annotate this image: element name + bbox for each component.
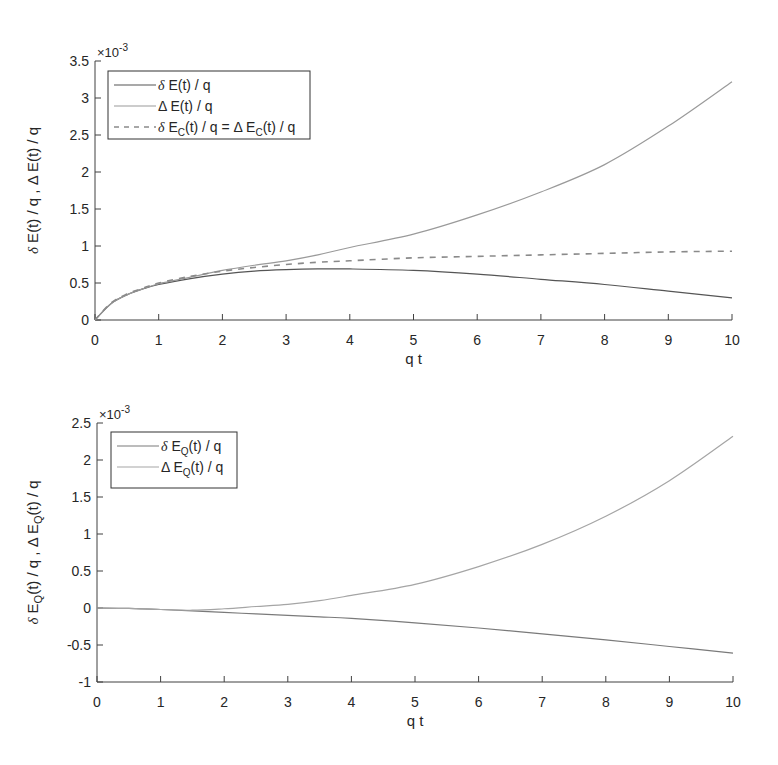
- y-tick-label: 0: [81, 312, 89, 328]
- x-tick-label: 1: [157, 694, 165, 710]
- y-tick-label: 2: [83, 452, 91, 468]
- y-axis-label: δ EQ(t) / q , Δ EQ(t) / q: [24, 480, 44, 624]
- legend: δ EQ(t) / qΔ EQ(t) / q: [111, 432, 237, 488]
- series-line-2: [95, 251, 732, 320]
- y-exponent-label: ×10-3: [97, 42, 128, 60]
- series-line-0: [97, 608, 733, 653]
- y-tick-label: 2.5: [72, 415, 92, 431]
- y-tick-label: -1: [79, 674, 92, 690]
- x-tick-label: 6: [473, 332, 481, 348]
- figure: 01234567891000.511.522.533.5×10-3q tδ E(…: [0, 0, 778, 765]
- x-tick-label: 3: [284, 694, 292, 710]
- x-tick-label: 7: [537, 332, 545, 348]
- x-tick-label: 3: [282, 332, 290, 348]
- x-axis-label: q t: [407, 712, 425, 729]
- x-tick-label: 10: [724, 332, 740, 348]
- x-tick-label: 5: [411, 694, 419, 710]
- x-tick-label: 8: [602, 694, 610, 710]
- x-tick-label: 0: [93, 694, 101, 710]
- legend-label: Δ E(t) / q: [158, 98, 213, 114]
- y-tick-label: -0.5: [67, 637, 91, 653]
- y-tick-label: 0: [83, 600, 91, 616]
- y-tick-label: 1: [83, 526, 91, 542]
- legend: δ E(t) / qΔ E(t) / qδ EC(t) / q = Δ EC(t…: [108, 71, 310, 139]
- x-axis-label: q t: [405, 350, 423, 367]
- bottom-plot: 012345678910-1-0.500.511.522.5×10-3q tδ …: [24, 404, 741, 729]
- y-tick-label: 0.5: [70, 275, 90, 291]
- y-tick-label: 3: [81, 90, 89, 106]
- x-tick-label: 2: [220, 694, 228, 710]
- x-tick-label: 4: [348, 694, 356, 710]
- y-axis-label: δ E(t) / q , Δ E(t) / q: [24, 127, 41, 254]
- x-tick-label: 0: [91, 332, 99, 348]
- top-plot: 01234567891000.511.522.533.5×10-3q tδ E(…: [24, 42, 740, 367]
- legend-label: δ E(t) / q: [158, 77, 210, 93]
- y-tick-label: 1.5: [70, 201, 90, 217]
- x-tick-label: 8: [601, 332, 609, 348]
- x-tick-label: 7: [538, 694, 546, 710]
- x-tick-label: 10: [725, 694, 741, 710]
- x-tick-label: 6: [475, 694, 483, 710]
- y-tick-label: 1: [81, 238, 89, 254]
- y-tick-label: 0.5: [72, 563, 92, 579]
- x-tick-label: 4: [346, 332, 354, 348]
- x-tick-label: 2: [219, 332, 227, 348]
- x-tick-label: 9: [666, 694, 674, 710]
- x-tick-label: 5: [410, 332, 418, 348]
- y-tick-label: 3.5: [70, 53, 90, 69]
- x-tick-label: 9: [664, 332, 672, 348]
- y-exponent-label: ×10-3: [99, 404, 130, 422]
- y-tick-label: 1.5: [72, 489, 92, 505]
- y-tick-label: 2: [81, 164, 89, 180]
- y-tick-label: 2.5: [70, 127, 90, 143]
- x-tick-label: 1: [155, 332, 163, 348]
